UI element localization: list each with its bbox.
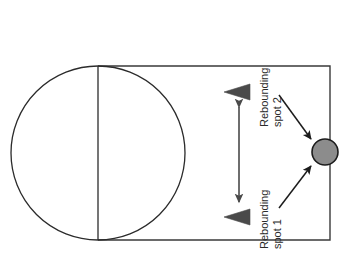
rebounding-spot-2-label-line1: Rebounding: [258, 68, 271, 127]
diagram-canvas: [0, 0, 345, 273]
spot-2-triangle-icon: [224, 84, 250, 100]
ball: [312, 139, 338, 165]
rebounding-diagram: Rebounding spot 2 Rebounding spot 1: [0, 0, 345, 273]
spot-1-to-ball-arrow: [279, 166, 311, 208]
rebounding-spot-1-label-line2: spot 1: [271, 190, 284, 249]
spot-1-triangle-icon: [224, 209, 250, 225]
rebounding-spot-1-label: Rebounding spot 1: [258, 190, 283, 249]
rebounding-spot-2-label: Rebounding spot 2: [258, 68, 283, 127]
court-rectangle: [98, 66, 330, 240]
spot-2-to-ball-arrow: [279, 95, 311, 139]
rebounding-spot-2-label-line2: spot 2: [271, 68, 284, 127]
rebounding-spot-1-label-line1: Rebounding: [258, 190, 271, 249]
